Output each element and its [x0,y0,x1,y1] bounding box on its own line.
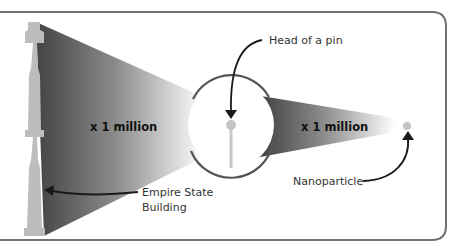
building-label-line2: Building [142,201,187,214]
scale-label-right: x 1 million [301,120,368,134]
scale-label-left: x 1 million [90,120,157,134]
pin-label: Head of a pin [269,34,343,47]
building-label-line1: Empire State [142,186,214,199]
nanoparticle-dot [403,122,411,130]
arrow-to-nanoparticle-icon [363,131,414,181]
pin-head [226,120,236,130]
scale-comparison-diagram: x 1 million x 1 million Head of a pin Na… [0,0,458,250]
nanoparticle-label: Nanoparticle [293,175,363,188]
